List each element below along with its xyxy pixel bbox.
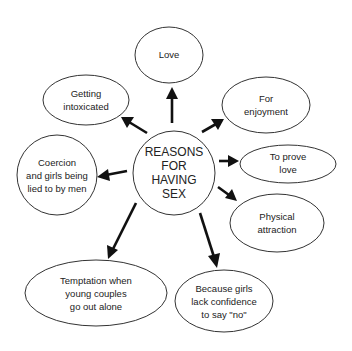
- node-love: Love: [135, 27, 203, 83]
- arrow-to-physical: [218, 187, 237, 201]
- node-love-line-1: Love: [159, 49, 180, 60]
- node-enjoyment: For enjoyment: [222, 77, 310, 133]
- node-enjoyment-line-1: For: [259, 93, 273, 104]
- node-temptation-line-1: Temptation when: [60, 275, 132, 286]
- reasons-diagram: REASONS FOR HAVING SEX Love Getting into…: [0, 0, 352, 351]
- node-prove-love-line-2: love: [279, 164, 296, 175]
- node-prove-love: To prove love: [240, 145, 336, 183]
- node-temptation-line-2: young couples: [65, 288, 127, 299]
- node-physical-line-2: attraction: [257, 224, 296, 235]
- arrow-to-prove-love: [219, 155, 239, 167]
- node-coercion-line-1: Coercion: [38, 157, 76, 168]
- arrow-to-intoxicated: [121, 117, 147, 133]
- node-confidence: Because girls lack confidence to say "no…: [175, 270, 273, 332]
- node-temptation-line-3: go out alone: [70, 301, 122, 312]
- node-intoxicated: Getting intoxicated: [43, 75, 129, 125]
- center-line-1: REASONS: [145, 145, 204, 159]
- center-line-4: SEX: [162, 187, 186, 201]
- arrow-to-temptation: [107, 203, 136, 259]
- node-coercion: Coercion and girls being lied to by men: [17, 135, 97, 215]
- node-confidence-line-3: to say "no": [201, 309, 246, 320]
- center-line-3: HAVING: [151, 173, 196, 187]
- center-node: REASONS FOR HAVING SEX: [133, 131, 215, 215]
- node-confidence-line-2: lack confidence: [191, 296, 256, 307]
- node-temptation: Temptation when young couples go out alo…: [25, 260, 167, 326]
- node-prove-love-line-1: To prove: [270, 151, 306, 162]
- node-enjoyment-line-2: enjoyment: [244, 106, 288, 117]
- arrow-to-love: [166, 87, 178, 123]
- node-coercion-line-2: and girls being: [26, 170, 88, 181]
- node-intoxicated-line-2: intoxicated: [63, 101, 108, 112]
- node-physical-line-1: Physical: [259, 211, 294, 222]
- arrow-to-confidence: [200, 213, 220, 268]
- node-coercion-line-3: lied to by men: [27, 183, 86, 194]
- arrow-to-enjoyment: [202, 119, 224, 132]
- node-physical: Physical attraction: [230, 194, 324, 252]
- center-line-2: FOR: [161, 159, 187, 173]
- node-intoxicated-line-1: Getting: [71, 88, 102, 99]
- arrow-to-coercion: [97, 169, 127, 181]
- node-confidence-line-1: Because girls: [195, 283, 252, 294]
